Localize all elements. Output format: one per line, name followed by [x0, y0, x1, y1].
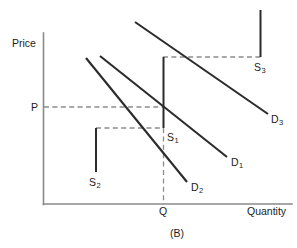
supply-label-s3-subscript: 3: [261, 66, 266, 75]
supply-label-s1-base: S: [167, 131, 174, 143]
supply-label-s2-base: S: [89, 176, 96, 188]
demand-label-d2: D2: [191, 182, 203, 193]
guide-lines-group: [44, 57, 261, 204]
figure-caption: (B): [170, 228, 184, 239]
demand-label-d3: D3: [271, 114, 283, 125]
supply-label-s2-subscript: 2: [96, 181, 101, 190]
demand-label-d1-base: D: [231, 156, 239, 168]
demand-curve-d2: [86, 58, 187, 182]
demand-label-d3-subscript: 3: [279, 118, 284, 127]
demand-label-d2-base: D: [191, 181, 199, 193]
axes-group: [44, 33, 293, 205]
price-tick-label: P: [31, 102, 38, 113]
quantity-tick-label: Q: [159, 206, 167, 217]
supply-label-s3: S3: [254, 62, 266, 73]
y-axis-label: Price: [12, 38, 36, 49]
supply-label-s3-base: S: [254, 61, 261, 73]
supply-label-s1: S1: [167, 132, 179, 143]
supply-label-s1-subscript: 1: [174, 136, 179, 145]
x-axis-label: Quantity: [247, 206, 286, 217]
supply-demand-figure: Price Quantity P Q D1 D2 D3 S1 S2 S3 (B): [0, 0, 297, 248]
demand-label-d1-subscript: 1: [239, 161, 244, 170]
demand-label-d2-subscript: 2: [199, 186, 204, 195]
demand-label-d3-base: D: [271, 113, 279, 125]
demand-label-d1: D1: [231, 157, 243, 168]
supply-label-s2: S2: [89, 177, 101, 188]
